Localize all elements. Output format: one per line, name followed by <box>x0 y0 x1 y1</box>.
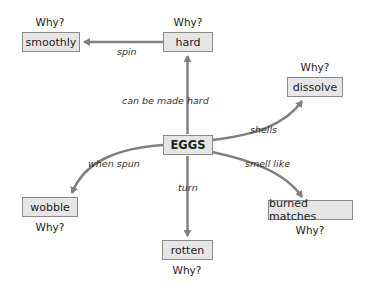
why-label-hard: Why? <box>158 16 218 28</box>
node-burned-matches: burned matches <box>268 200 353 220</box>
node-eggs-center: EGGS <box>163 135 213 155</box>
why-label-wobble: Why? <box>20 221 80 233</box>
node-hard: hard <box>163 32 213 52</box>
node-smoothly: smoothly <box>22 32 80 52</box>
edge-label-when-spun: when spun <box>88 158 140 169</box>
edge-label-turn: turn <box>178 182 198 193</box>
edge-eggs-wobble <box>72 145 163 193</box>
edge-label-spin: spin <box>117 46 137 57</box>
edge-label-can-be-made-hard: can be made hard <box>122 95 209 106</box>
node-rotten: rotten <box>162 240 213 260</box>
why-label-dissolve: Why? <box>285 61 345 73</box>
node-dissolve: dissolve <box>287 77 343 97</box>
edge-label-smell-like: smell like <box>245 158 290 169</box>
node-wobble: wobble <box>22 197 78 217</box>
why-label-rotten: Why? <box>157 264 217 276</box>
edge-label-shells: shells <box>250 124 277 135</box>
why-label-smoothly: Why? <box>20 16 80 28</box>
why-label-burned-matches: Why? <box>280 224 340 236</box>
